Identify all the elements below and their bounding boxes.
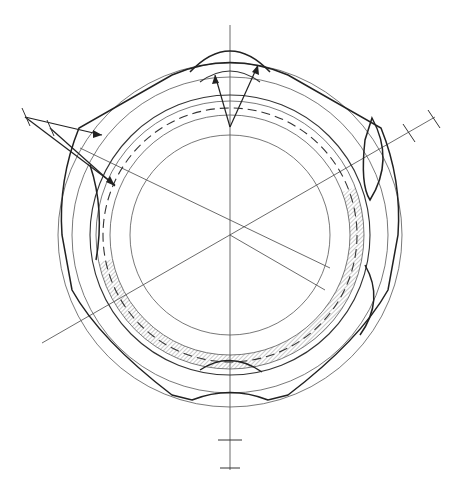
radius-arrows-top (212, 65, 259, 127)
tick-mark (428, 110, 440, 128)
leader-arrows-left (22, 108, 115, 186)
diagonal-centerline-b (80, 148, 330, 268)
nut-technical-drawing (0, 0, 475, 501)
centerlines (42, 25, 440, 470)
tick-mark (403, 124, 415, 142)
diagonal-centerline-b-ext (230, 235, 325, 290)
right-bottom-scallop (360, 265, 374, 335)
